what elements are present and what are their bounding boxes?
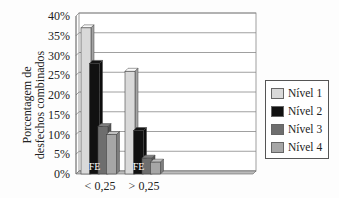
legend-item-nivel-4: Nível 4 [271,141,322,153]
chart: 0%5%10%15%20%25%30%35%40%< 0,25> 0,25FEF… [0,0,339,198]
bar [151,162,161,174]
x-tick-label: > 0,25 [129,179,160,193]
legend-swatch [271,88,284,99]
legend-label: Nível 3 [288,123,322,135]
bar [107,135,117,175]
y-axis-label-line-2: desfechos combinados [34,51,47,159]
legend-item-nivel-3: Nível 3 [271,123,322,135]
legend-label: Nível 1 [288,87,322,99]
legend-item-nivel-2: Nível 2 [271,105,322,117]
legend-swatch [271,106,284,117]
y-axis-label: Porcentagem de desfechos combinados [4,30,64,180]
x-tick-label: < 0,25 [85,179,116,193]
legend-swatch [271,142,284,153]
legend: Nível 1 Nível 2 Nível 3 Nível 4 [265,80,329,159]
legend-item-nivel-1: Nível 1 [271,87,322,99]
annotation-fe: FE [133,161,145,172]
y-tick-label: 40% [48,9,70,23]
legend-swatch [271,124,284,135]
legend-label: Nível 4 [288,141,322,153]
annotation-fe: FE [89,161,101,172]
legend-label: Nível 2 [288,105,322,117]
